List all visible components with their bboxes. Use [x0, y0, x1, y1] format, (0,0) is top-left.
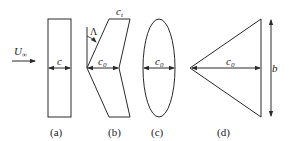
svg-text:c0: c0 — [98, 55, 107, 69]
shape-b-swept: Λ ct c0 (b) — [87, 5, 130, 139]
freestream-subscript: ∞ — [22, 51, 27, 59]
svg-text:c0: c0 — [226, 55, 235, 69]
caption-b: (b) — [108, 126, 121, 139]
chord-subscript-d: 0 — [231, 61, 235, 69]
caption-c: (c) — [151, 126, 164, 139]
freestream-arrow: U∞ — [12, 45, 35, 61]
tip-chord-subscript: t — [121, 11, 124, 19]
caption-d: (d) — [217, 126, 230, 139]
sweep-label: Λ — [90, 26, 98, 37]
span-label: b — [272, 62, 278, 74]
shape-d-delta: c0 b (d) — [190, 19, 278, 139]
shape-a-rectangle: c (a) — [48, 19, 71, 139]
svg-text:ct: ct — [116, 5, 124, 19]
chord-label-a: c — [57, 55, 62, 67]
shape-c-ellipse: c0 (c) — [143, 19, 175, 139]
svg-text:c0: c0 — [155, 55, 164, 69]
svg-text:U∞: U∞ — [14, 45, 27, 59]
chord-subscript-c: 0 — [160, 61, 164, 69]
planform-diagram: U∞ c (a) Λ ct c0 (b) c0 (c) c0 b (d) — [0, 0, 289, 141]
chord-subscript-b: 0 — [103, 61, 107, 69]
caption-a: (a) — [50, 126, 63, 139]
